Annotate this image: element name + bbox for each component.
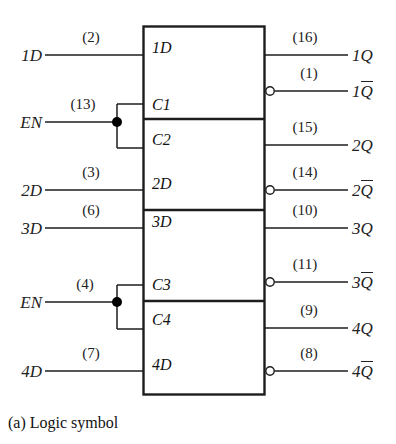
en2-junction-dot bbox=[112, 297, 122, 307]
pin-number-4q: (9) bbox=[281, 303, 337, 318]
output-label-1qbar-letter: Q bbox=[361, 83, 373, 100]
pin-number-1q: (16) bbox=[277, 30, 333, 45]
pin-number-en2: (4) bbox=[57, 277, 113, 292]
box-port-label-2d: 2D bbox=[152, 176, 172, 192]
pin-number-3q: (10) bbox=[277, 203, 333, 218]
output-label-4q-letter: Q bbox=[361, 319, 373, 338]
inversion-bubble-2qbar bbox=[266, 186, 274, 194]
box-port-label-3d: 3D bbox=[152, 214, 172, 230]
output-label-3q: 3Q bbox=[352, 220, 373, 237]
overbar bbox=[361, 180, 373, 181]
output-label-2q-letter: Q bbox=[361, 136, 373, 155]
output-label-1qbar: 1Q bbox=[352, 83, 373, 100]
pin-number-1qbar: (1) bbox=[281, 66, 337, 81]
output-label-3q-letter: Q bbox=[361, 219, 373, 238]
output-label-3qbar: 3Q bbox=[352, 274, 373, 291]
box-port-label-4d: 4D bbox=[152, 357, 172, 373]
input-label-2d: 2D bbox=[8, 182, 42, 199]
input-label-1d: 1D bbox=[8, 47, 42, 64]
pin-number-2qbar: (14) bbox=[277, 165, 333, 180]
output-label-4qbar: 4Q bbox=[352, 363, 373, 380]
output-label-1q: 1Q bbox=[352, 47, 373, 64]
pin-number-4d: (7) bbox=[63, 346, 119, 361]
box-port-label-c2: C2 bbox=[152, 132, 171, 148]
overbar bbox=[361, 272, 373, 273]
overbar bbox=[361, 81, 373, 82]
input-label-en2: EN bbox=[8, 294, 42, 311]
pin-number-4qbar: (8) bbox=[281, 346, 337, 361]
inversion-bubble-1qbar bbox=[266, 87, 274, 95]
pin-number-2d: (3) bbox=[63, 165, 119, 180]
box-port-label-1d: 1D bbox=[152, 40, 172, 56]
overbar bbox=[361, 361, 373, 362]
output-label-4qbar-letter: Q bbox=[361, 363, 373, 380]
output-label-2q-index: 2 bbox=[352, 136, 361, 155]
pin-number-1d: (2) bbox=[63, 30, 119, 45]
box-port-label-c4: C4 bbox=[152, 312, 171, 328]
box-port-label-c1: C1 bbox=[152, 97, 171, 113]
output-label-1q-index: 1 bbox=[352, 46, 361, 65]
output-label-3qbar-index: 3 bbox=[352, 274, 361, 291]
input-label-en1: EN bbox=[8, 114, 42, 131]
figure-caption: (a) Logic symbol bbox=[8, 414, 118, 432]
output-label-3q-index: 3 bbox=[352, 219, 361, 238]
inversion-bubble-4qbar bbox=[266, 367, 274, 375]
pin-number-3qbar: (11) bbox=[277, 257, 333, 272]
output-label-1q-letter: Q bbox=[361, 46, 373, 65]
pin-number-en1: (13) bbox=[55, 97, 111, 112]
input-label-4d: 4D bbox=[8, 363, 42, 380]
logic-symbol-figure: 1D EN 2D 3D EN 4D (2) (13) (3) (6) (4) (… bbox=[0, 0, 396, 444]
inversion-bubble-3qbar bbox=[266, 278, 274, 286]
output-label-4q: 4Q bbox=[352, 320, 373, 337]
output-label-4qbar-index: 4 bbox=[352, 363, 361, 380]
input-label-3d: 3D bbox=[8, 220, 42, 237]
pin-number-2q: (15) bbox=[277, 120, 333, 135]
output-label-1qbar-index: 1 bbox=[352, 83, 361, 100]
output-label-3qbar-letter: Q bbox=[361, 274, 373, 291]
box-port-label-c3: C3 bbox=[152, 277, 171, 293]
output-label-4q-index: 4 bbox=[352, 319, 361, 338]
en1-junction-dot bbox=[112, 117, 122, 127]
output-label-2qbar-letter: Q bbox=[361, 182, 373, 199]
output-label-2qbar: 2Q bbox=[352, 182, 373, 199]
pin-number-3d: (6) bbox=[63, 203, 119, 218]
output-label-2qbar-index: 2 bbox=[352, 182, 361, 199]
output-label-2q: 2Q bbox=[352, 137, 373, 154]
